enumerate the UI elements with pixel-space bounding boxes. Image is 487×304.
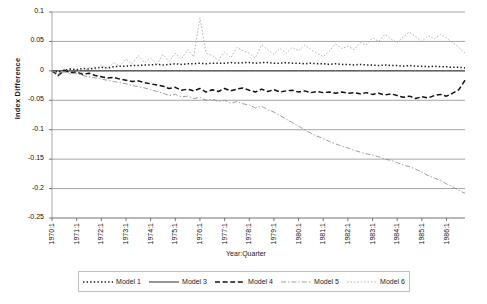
legend-label: Model 4	[248, 278, 273, 285]
legend-label: Model 6	[380, 278, 405, 285]
legend-item-model-5: Model 5	[281, 278, 339, 286]
legend-swatch-dashdot	[281, 278, 311, 286]
legend-swatch-dotted	[83, 278, 113, 286]
chart-legend: Model 1Model 3Model 4Model 5Model 6	[78, 271, 410, 292]
legend-item-model-1: Model 1	[83, 278, 141, 286]
legend-swatch-dashed	[215, 278, 245, 286]
plot-area	[0, 0, 487, 304]
legend-swatch-dotted-light	[347, 278, 377, 286]
legend-item-model-6: Model 6	[347, 278, 405, 286]
series-line-model-5	[52, 71, 465, 193]
series-line-model-4	[52, 70, 465, 98]
legend-item-model-4: Model 4	[215, 278, 273, 286]
legend-swatch-solid	[149, 278, 179, 286]
legend-label: Model 1	[116, 278, 141, 285]
legend-label: Model 5	[314, 278, 339, 285]
chart-container: Index Difference Year:Quarter 0.10.050-0…	[0, 0, 487, 304]
series-line-model-6	[52, 18, 465, 77]
legend-item-model-3: Model 3	[149, 278, 207, 286]
legend-label: Model 3	[182, 278, 207, 285]
